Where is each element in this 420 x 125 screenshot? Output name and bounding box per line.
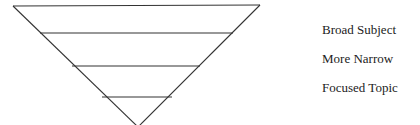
funnel-top-line bbox=[13, 5, 260, 6]
label-broad-subject: Broad Subject bbox=[322, 23, 396, 37]
label-more-narrow: More Narrow bbox=[322, 52, 393, 66]
label-focused-topic: Focused Topic bbox=[322, 81, 398, 95]
funnel-right-edge bbox=[138, 5, 260, 125]
